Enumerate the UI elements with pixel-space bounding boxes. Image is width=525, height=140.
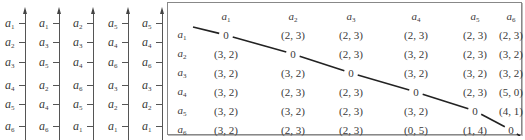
axis-label: a4 [39, 97, 49, 111]
matrix-cell: (3, 2) [499, 67, 523, 79]
axis-line [162, 10, 163, 140]
axis-line [93, 10, 94, 140]
axis-tick [87, 23, 93, 24]
pairwise-comparison-matrix: a1a2a3a4a5a6a10(2, 3)(2, 3)(2, 3)(2, 3)(… [167, 2, 522, 135]
axis-tick [53, 85, 59, 86]
axis-label: a3 [73, 35, 83, 49]
diagonal-cell: 0 [413, 86, 419, 98]
axis-label: a4 [5, 78, 15, 92]
axis-tick [19, 23, 25, 24]
arrow-up-icon [160, 7, 164, 14]
axis-tick [53, 23, 59, 24]
matrix-cell: (3, 2) [404, 48, 428, 60]
row-header: a6 [178, 123, 187, 137]
axis-label: a5 [39, 55, 49, 69]
row-header: a2 [178, 47, 187, 61]
axis-tick [156, 42, 162, 43]
axis-label: a4 [108, 35, 118, 49]
axis-tick [19, 104, 25, 105]
axis-tick [87, 104, 93, 105]
column-header: a3 [347, 10, 356, 24]
row-header: a5 [178, 104, 187, 118]
axis-label: a1 [39, 16, 49, 30]
axis-line [59, 10, 60, 140]
axis-tick [122, 62, 128, 63]
axis-line [128, 10, 129, 140]
row-header: a1 [178, 28, 187, 42]
axis-label: a2 [73, 16, 83, 30]
column-header: a2 [289, 10, 298, 24]
axis-label: a5 [73, 97, 83, 111]
axis-tick [87, 85, 93, 86]
arrow-up-icon [57, 7, 61, 14]
axis-label: a2 [142, 97, 152, 111]
matrix-cell: (2, 3) [339, 105, 363, 117]
axis-tick [122, 85, 128, 86]
axis-label: a2 [5, 35, 15, 49]
matrix-cell: (2, 3) [463, 29, 487, 41]
arrow-up-icon [91, 7, 95, 14]
axis-label: a5 [142, 16, 152, 30]
axis-line [25, 10, 26, 140]
matrix-cell: (0, 5) [404, 124, 428, 136]
axis-label: a3 [142, 78, 152, 92]
column-header: a4 [412, 10, 421, 24]
axis-label: a1 [142, 119, 152, 133]
column-header: a6 [507, 10, 516, 24]
row-header: a3 [178, 66, 187, 80]
axis-label: a3 [108, 78, 118, 92]
axis-label: a4 [142, 35, 152, 49]
axis-tick [156, 85, 162, 86]
axis-label: a2 [39, 78, 49, 92]
matrix-cell: (3, 2) [214, 105, 238, 117]
column-header: a5 [471, 10, 480, 24]
axis-label: a6 [73, 78, 83, 92]
axis-label: a6 [108, 55, 118, 69]
diagonal-cell: 0 [348, 67, 354, 79]
matrix-cell: (4, 1) [499, 105, 523, 117]
row-header: a4 [178, 85, 187, 99]
matrix-cell: (3, 2) [214, 48, 238, 60]
matrix-cell: (2, 3) [499, 29, 523, 41]
axis-tick [53, 126, 59, 127]
matrix-cell: (2, 3) [339, 29, 363, 41]
matrix-cell: (3, 2) [463, 67, 487, 79]
matrix-cell: (3, 2) [281, 105, 305, 117]
matrix-cell: (2, 3) [404, 29, 428, 41]
arrow-up-icon [126, 7, 130, 14]
axis-label: a5 [5, 97, 15, 111]
axis-tick [87, 62, 93, 63]
axis-tick [156, 126, 162, 127]
matrix-cell: (3, 2) [214, 86, 238, 98]
axis-tick [122, 104, 128, 105]
axis-tick [53, 62, 59, 63]
axis-tick [87, 42, 93, 43]
axis-tick [19, 126, 25, 127]
axis-tick [87, 126, 93, 127]
axis-tick [122, 42, 128, 43]
matrix-cell: (3, 2) [499, 48, 523, 60]
axis-tick [122, 126, 128, 127]
axis-label: a1 [108, 119, 118, 133]
matrix-cell: (5, 0) [499, 86, 523, 98]
axis-tick [19, 62, 25, 63]
matrix-cell: (2, 3) [339, 124, 363, 136]
axis-label: a3 [5, 55, 15, 69]
matrix-cell: (3, 2) [214, 124, 238, 136]
arrow-up-icon [23, 7, 27, 14]
axis-label: a6 [5, 119, 15, 133]
axis-tick [19, 85, 25, 86]
axis-tick [122, 23, 128, 24]
axis-label: a1 [73, 119, 83, 133]
matrix-cell: (2, 3) [339, 48, 363, 60]
axis-label: a6 [142, 55, 152, 69]
axis-tick [156, 23, 162, 24]
axis-label: a3 [39, 35, 49, 49]
diagonal-cell: 0 [290, 48, 296, 60]
matrix-cell: (3, 2) [281, 67, 305, 79]
diagonal-cell: 0 [472, 105, 478, 117]
axis-label: a4 [73, 55, 83, 69]
matrix-cell: (2, 3) [281, 86, 305, 98]
ranking-axes: a1a2a3a4a5a6a1a3a5a2a4a6a2a3a4a6a5a1a5a4… [0, 0, 166, 140]
axis-tick [156, 104, 162, 105]
